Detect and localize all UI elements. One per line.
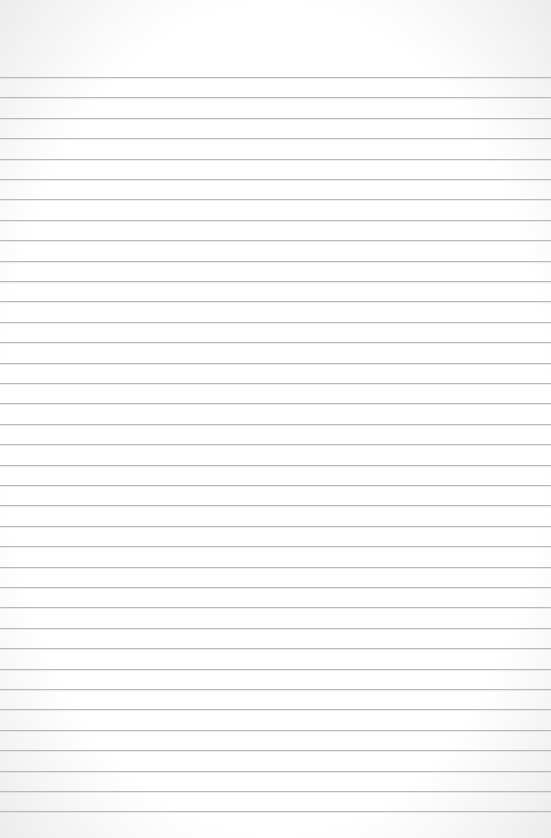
ruled-line bbox=[0, 771, 551, 772]
ruled-line bbox=[0, 567, 551, 568]
ruled-line bbox=[0, 383, 551, 384]
ruled-line bbox=[0, 322, 551, 323]
ruled-line bbox=[0, 587, 551, 588]
ruled-line bbox=[0, 689, 551, 690]
ruled-line bbox=[0, 159, 551, 160]
ruled-line bbox=[0, 811, 551, 812]
ruled-line bbox=[0, 342, 551, 343]
ruled-line bbox=[0, 709, 551, 710]
ruled-line bbox=[0, 730, 551, 731]
ruled-line bbox=[0, 526, 551, 527]
ruled-line bbox=[0, 118, 551, 119]
ruled-line bbox=[0, 465, 551, 466]
ruled-line bbox=[0, 220, 551, 221]
ruled-line bbox=[0, 505, 551, 506]
ruled-line bbox=[0, 648, 551, 649]
ruled-line bbox=[0, 444, 551, 445]
ruled-line bbox=[0, 363, 551, 364]
ruled-line bbox=[0, 607, 551, 608]
ruled-line bbox=[0, 138, 551, 139]
ruled-line bbox=[0, 281, 551, 282]
ruled-line bbox=[0, 403, 551, 404]
ruled-line bbox=[0, 669, 551, 670]
ruled-line bbox=[0, 301, 551, 302]
ruled-line bbox=[0, 179, 551, 180]
ruled-line bbox=[0, 750, 551, 751]
ruled-line bbox=[0, 97, 551, 98]
ruled-line bbox=[0, 424, 551, 425]
ruled-line bbox=[0, 199, 551, 200]
ruled-line bbox=[0, 791, 551, 792]
ruled-line bbox=[0, 628, 551, 629]
ruled-line bbox=[0, 485, 551, 486]
ruled-line bbox=[0, 77, 551, 78]
ruled-line bbox=[0, 546, 551, 547]
ruled-line bbox=[0, 261, 551, 262]
lined-paper-sheet bbox=[0, 0, 551, 838]
ruled-line bbox=[0, 240, 551, 241]
